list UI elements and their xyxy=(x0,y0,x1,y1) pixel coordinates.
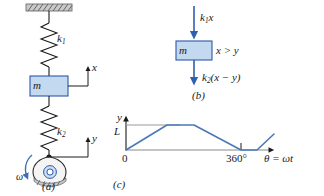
label-force-k2xy: k2(x − y) xyxy=(202,72,241,83)
label-k2-subscript: 2 xyxy=(62,131,66,139)
label-k1-subscript: 1 xyxy=(62,38,66,46)
caption-panel-b: (b) xyxy=(192,90,205,101)
label-chart-xaxis: θ = ωt xyxy=(264,153,293,164)
spring-k1 xyxy=(41,11,57,76)
figure-root: k1 m x k2 y ω (a) xyxy=(0,0,324,196)
label-k1: k1 xyxy=(57,33,66,44)
label-axis-x: x xyxy=(92,62,97,73)
spring-k2 xyxy=(41,96,57,157)
chart-series-cam-displacement xyxy=(126,125,274,150)
label-fbd-mass-m: m xyxy=(179,45,187,56)
panel-a-svg xyxy=(0,0,120,196)
label-force-k1x-subscript: 1 xyxy=(205,17,209,25)
fixed-support-hatched xyxy=(26,4,72,11)
label-omega: ω xyxy=(16,172,23,182)
label-condition-x-gt-y: x > y xyxy=(216,45,239,56)
axis-y-indicator xyxy=(51,139,88,157)
caption-panel-a: (a) xyxy=(42,181,55,192)
caption-panel-c: (c) xyxy=(113,179,125,190)
label-chart-yaxis: y xyxy=(117,112,122,123)
label-chart-level-L: L xyxy=(114,126,120,137)
omega-rotation-arrow xyxy=(25,155,32,177)
label-axis-y: y xyxy=(92,133,97,144)
label-chart-period-360: 360° xyxy=(226,153,247,164)
label-force-k2xy-subscript: 2 xyxy=(207,77,211,85)
axis-x-indicator xyxy=(68,68,88,86)
label-mass-m: m xyxy=(33,80,41,91)
panel-c-waveform-plot: y L 0 360° θ = ωt (c) xyxy=(112,112,324,196)
label-force-k1x: k1x xyxy=(200,12,213,23)
panel-b-free-body-diagram: k1x m x > y k2(x − y) (b) xyxy=(152,0,262,106)
label-k2: k2 xyxy=(57,126,66,137)
label-chart-origin: 0 xyxy=(122,153,128,164)
panel-a-schematic: k1 m x k2 y ω (a) xyxy=(0,0,120,196)
